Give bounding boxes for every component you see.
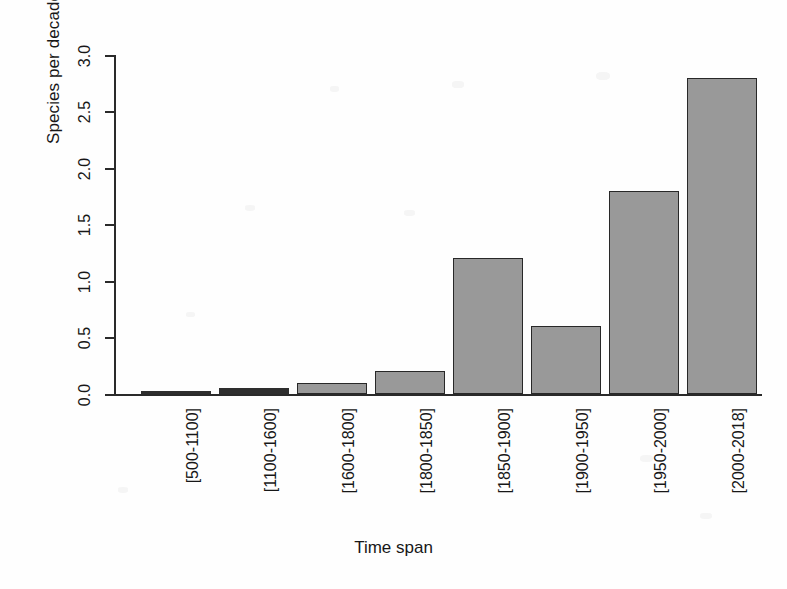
y-tick-label: 1.0 bbox=[76, 255, 94, 309]
y-tick-label: 3.0 bbox=[76, 29, 94, 83]
y-tick-mark bbox=[105, 281, 115, 283]
bar-2 bbox=[297, 383, 367, 394]
x-tick-label-6: [1950-2000] bbox=[652, 408, 670, 528]
bar-chart: Species per decade 0.0 0.5 1.0 1.5 2.0 2… bbox=[0, 0, 787, 589]
scan-speck bbox=[245, 205, 255, 211]
x-axis-title: Time span bbox=[0, 538, 787, 558]
scan-speck bbox=[404, 210, 415, 216]
scan-speck bbox=[330, 86, 339, 92]
x-tick-label-2: [1600-1800] bbox=[340, 408, 358, 528]
x-tick-label-4: [1850-1900] bbox=[496, 408, 514, 528]
y-tick-label: 0.0 bbox=[76, 368, 94, 422]
y-tick-label: 0.5 bbox=[76, 311, 94, 365]
x-tick-label-1: [1100-1600] bbox=[262, 408, 280, 528]
y-tick-label: 2.5 bbox=[76, 85, 94, 139]
x-tick-label-0: [500-1100] bbox=[184, 408, 202, 528]
y-tick-mark bbox=[105, 55, 115, 57]
scan-speck bbox=[118, 487, 128, 493]
bar-0 bbox=[141, 391, 211, 394]
bar-3 bbox=[375, 371, 445, 394]
y-tick-mark bbox=[105, 224, 115, 226]
y-tick-mark bbox=[105, 337, 115, 339]
bar-7 bbox=[687, 78, 757, 394]
y-axis-title: Species per decade bbox=[44, 0, 68, 144]
y-tick-label: 1.5 bbox=[76, 198, 94, 252]
bar-5 bbox=[531, 326, 601, 394]
x-axis-line bbox=[114, 394, 762, 396]
scan-speck bbox=[596, 72, 610, 80]
x-tick-label-3: [1800-1850] bbox=[418, 408, 436, 528]
scan-speck bbox=[452, 81, 464, 88]
bar-6 bbox=[609, 191, 679, 394]
x-tick-label-5: [1900-1950] bbox=[574, 408, 592, 528]
scan-speck bbox=[700, 513, 712, 519]
bar-4 bbox=[453, 258, 523, 394]
x-tick-label-7: [2000-2018] bbox=[730, 408, 748, 528]
y-tick-mark bbox=[105, 111, 115, 113]
y-tick-mark bbox=[105, 168, 115, 170]
y-tick-label: 2.0 bbox=[76, 142, 94, 196]
bar-1 bbox=[219, 388, 289, 394]
scan-speck bbox=[186, 312, 195, 317]
